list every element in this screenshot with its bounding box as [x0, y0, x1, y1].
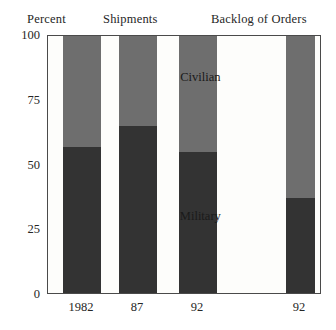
- bar-segment-military: [286, 198, 315, 293]
- y-tick-label-50: 50: [0, 157, 40, 172]
- series-label-military: Military: [180, 208, 221, 223]
- bar-segment-civilian: [286, 36, 315, 198]
- x-tick-label-87: 87: [131, 300, 144, 315]
- y-tick-label-25: 25: [0, 222, 40, 237]
- bar-shipments-1982[interactable]: [63, 36, 101, 293]
- y-tick-label-0: 0: [0, 287, 40, 302]
- x-tick-label-92-shipments: 92: [191, 300, 204, 315]
- panel-title-shipments: Shipments: [103, 12, 158, 27]
- axis-title-percent: Percent: [27, 12, 66, 27]
- bar-segment-civilian: [63, 36, 101, 147]
- y-tick-label-100: 100: [0, 28, 40, 43]
- y-tick-label-75: 75: [0, 92, 40, 107]
- x-tick-label-1982: 1982: [69, 300, 94, 315]
- x-tick-label-92-backlog: 92: [293, 300, 306, 315]
- bar-segment-military: [63, 147, 101, 293]
- bar-shipments-87[interactable]: [119, 36, 157, 293]
- bar-segment-civilian: [179, 36, 217, 152]
- bar-segment-civilian: [119, 36, 157, 126]
- bar-backlog-of-orders-92[interactable]: [286, 36, 315, 293]
- series-label-civilian: Civilian: [180, 70, 220, 85]
- bar-segment-military: [119, 126, 157, 293]
- panel-title-backlog: Backlog of Orders: [211, 12, 307, 27]
- chart-page: Percent Shipments Backlog of Orders 100 …: [0, 0, 336, 330]
- plot-area: Civilian Military: [47, 35, 321, 294]
